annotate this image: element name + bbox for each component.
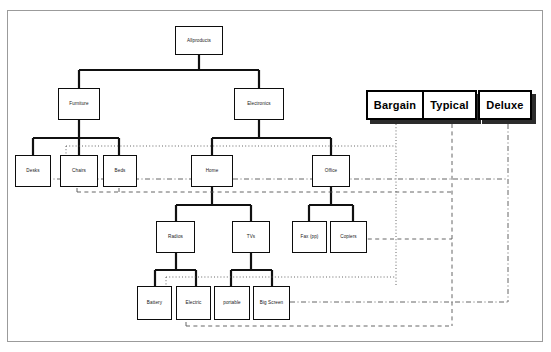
node-home[interactable]: Home (191, 155, 233, 187)
node-label: Office (325, 168, 338, 173)
node-label: Fax (pp) (301, 234, 319, 239)
node-label: TVs (247, 234, 255, 239)
category-bargain[interactable]: Bargain (366, 90, 424, 120)
category-typical[interactable]: Typical (422, 90, 477, 120)
category-label: Deluxe (486, 99, 523, 111)
category-deluxe[interactable]: Deluxe (478, 90, 532, 120)
node-desks[interactable]: Desks (15, 155, 51, 187)
node-label: Allproducts (187, 38, 211, 43)
node-electronics[interactable]: Electronics (234, 88, 284, 120)
node-label: portable (223, 300, 240, 305)
node-radios[interactable]: Radios (156, 221, 195, 253)
node-office[interactable]: Office (312, 155, 350, 187)
node-furniture[interactable]: Furniture (58, 88, 100, 120)
node-tvs[interactable]: TVs (232, 221, 270, 253)
category-label: Bargain (374, 99, 416, 111)
node-big-screen[interactable]: Big Screen (253, 286, 290, 320)
node-label: Furniture (69, 101, 88, 106)
category-label: Typical (430, 99, 469, 111)
node-label: Desks (26, 168, 39, 173)
node-chairs[interactable]: Chairs (60, 155, 98, 187)
node-label: Radios (168, 234, 183, 239)
node-label: Battery (147, 300, 162, 305)
node-allproducts[interactable]: Allproducts (175, 26, 223, 55)
node-copiers[interactable]: Copiers (330, 221, 367, 253)
node-label: Chairs (72, 168, 86, 173)
node-label: Electric (186, 300, 202, 305)
node-label: Copiers (340, 234, 357, 239)
node-label: Electronics (247, 101, 271, 106)
node-electric[interactable]: Electric (176, 286, 211, 320)
node-label: Home (206, 168, 219, 173)
node-beds[interactable]: Beds (103, 155, 137, 187)
node-label: Beds (115, 168, 126, 173)
diagram-canvas: Allproducts Furniture Electronics Desks … (0, 0, 551, 352)
node-battery[interactable]: Battery (137, 286, 172, 320)
node-fax[interactable]: Fax (pp) (292, 221, 327, 253)
node-label: Big Screen (260, 300, 283, 305)
node-portable[interactable]: portable (214, 286, 250, 320)
